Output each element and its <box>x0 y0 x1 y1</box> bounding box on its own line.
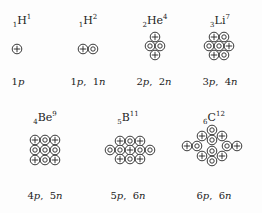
neutron-icon <box>155 41 165 51</box>
proton-icon <box>217 151 227 161</box>
neutron-icon <box>192 141 202 151</box>
proton-icon <box>50 155 60 165</box>
mass-number: 2 <box>93 13 97 21</box>
nucleon-count-be9: 4p, 5n <box>27 190 62 201</box>
nucleus-label-he4: 2He4 <box>142 13 167 29</box>
neutron-icon <box>222 141 232 151</box>
proton-icon <box>232 141 242 151</box>
nucleus-label-b11: 5B11 <box>117 110 138 126</box>
nucleus-label-h2: 1H2 <box>79 13 98 29</box>
nucleon-count-li7: 3p, 4n <box>202 76 237 87</box>
proton-icon <box>182 141 192 151</box>
nucleon-count-c12: 6p, 6n <box>196 190 231 201</box>
neutron-icon <box>105 145 115 155</box>
element-symbol: H <box>83 14 93 27</box>
neutron-icon <box>204 41 214 51</box>
proton-icon <box>217 131 227 141</box>
neutron-icon <box>219 32 229 42</box>
proton-icon <box>78 44 88 54</box>
proton-icon <box>30 155 40 165</box>
mass-number: 4 <box>163 13 167 21</box>
nucleus-be9 <box>30 135 60 165</box>
mass-number: 1 <box>27 13 31 21</box>
nucleon-count-h2: 1p, 1n <box>70 76 105 87</box>
neutron-icon <box>125 154 135 164</box>
proton-icon <box>197 151 207 161</box>
neutron-icon <box>214 41 224 51</box>
element-symbol: C <box>208 111 216 124</box>
nucleus-label-li7: 3Li7 <box>210 13 230 29</box>
neutron-icon <box>88 44 98 54</box>
element-symbol: Li <box>215 14 226 27</box>
proton-icon <box>135 136 145 146</box>
nucleus-b11 <box>105 136 155 164</box>
element-symbol: He <box>147 14 163 27</box>
neutron-icon <box>40 145 50 155</box>
proton-icon <box>50 135 60 145</box>
neutron-icon <box>125 136 135 146</box>
neutron-icon <box>207 146 217 156</box>
proton-icon <box>12 44 22 54</box>
neutron-icon <box>207 156 217 166</box>
nucleus-c12 <box>182 125 242 166</box>
neutron-icon <box>135 145 145 155</box>
neutron-icon <box>40 135 50 145</box>
mass-number: 11 <box>130 110 139 118</box>
nucleon-count-h1: 1p <box>12 76 25 87</box>
neutron-icon <box>40 155 50 165</box>
proton-icon <box>209 50 219 60</box>
mass-number: 9 <box>52 110 56 118</box>
proton-icon <box>150 32 160 42</box>
mass-number: 12 <box>216 110 225 118</box>
mass-number: 7 <box>225 13 229 21</box>
nucleon-count-b11: 5p, 6n <box>110 190 145 201</box>
nucleus-h2 <box>78 44 98 54</box>
particles-layer <box>0 0 262 213</box>
proton-icon <box>197 131 207 141</box>
neutron-icon <box>50 145 60 155</box>
nucleus-label-be9: 4Be9 <box>33 110 57 126</box>
proton-icon <box>30 135 40 145</box>
nucleus-li7 <box>204 32 234 60</box>
nucleon-count-he4: 2p, 2n <box>136 76 171 87</box>
element-symbol: H <box>17 14 27 27</box>
neutron-icon <box>30 145 40 155</box>
neutron-icon <box>219 50 229 60</box>
element-symbol: Be <box>38 111 53 124</box>
proton-icon <box>224 41 234 51</box>
nucleus-label-c12: 6C12 <box>203 110 225 126</box>
proton-icon <box>135 154 145 164</box>
neutron-icon <box>115 145 125 155</box>
neutron-icon <box>207 135 217 145</box>
nucleus-he4 <box>145 32 165 60</box>
proton-icon <box>209 32 219 42</box>
proton-icon <box>115 136 125 146</box>
neutron-icon <box>145 41 155 51</box>
proton-icon <box>115 154 125 164</box>
neutron-icon <box>207 125 217 135</box>
nucleus-h1 <box>12 44 22 54</box>
neutron-icon <box>145 145 155 155</box>
proton-icon <box>150 50 160 60</box>
element-symbol: B <box>122 111 130 124</box>
proton-icon <box>125 145 135 155</box>
nucleus-label-h1: 1H1 <box>13 13 32 29</box>
